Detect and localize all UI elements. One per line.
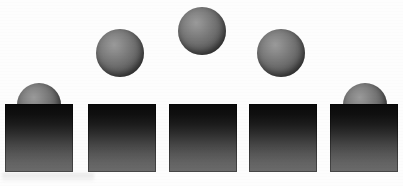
box-4	[249, 104, 317, 172]
box-3	[169, 104, 237, 172]
sphere-3	[178, 7, 226, 55]
sphere-4	[257, 29, 305, 77]
box-1	[5, 104, 73, 172]
box-2	[88, 104, 156, 172]
figure-canvas	[0, 0, 403, 186]
scan-smudge-artifact	[2, 173, 94, 182]
box-5	[330, 104, 398, 172]
sphere-2	[96, 29, 144, 77]
